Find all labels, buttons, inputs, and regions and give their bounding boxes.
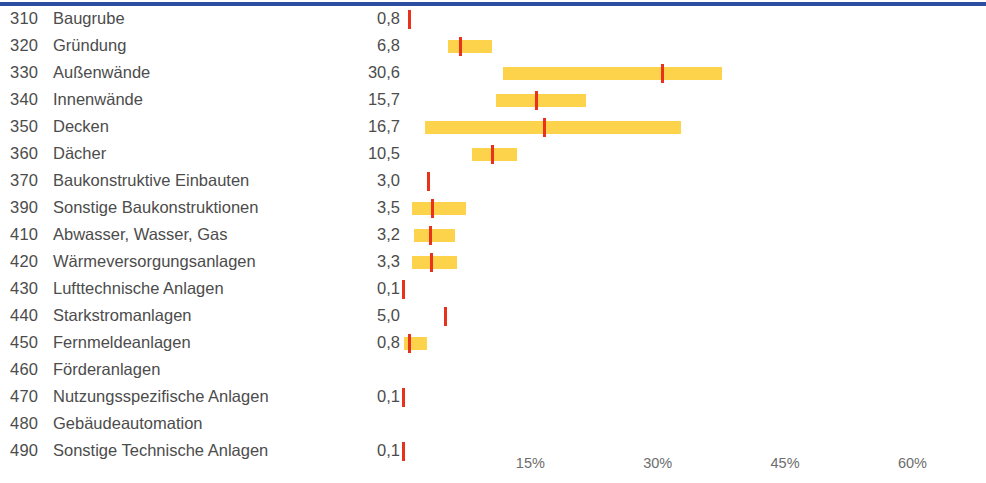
range-bar [496, 94, 585, 107]
mean-marker [661, 64, 664, 83]
row-plot [0, 33, 986, 60]
chart-row: 480Gebäudeautomation [0, 411, 986, 438]
chart-row: 420Wärmeversorgungsanlagen3,3 [0, 249, 986, 276]
mean-marker [535, 91, 538, 110]
chart-row: 440Starkstromanlagen5,0 [0, 303, 986, 330]
mean-marker [543, 118, 546, 137]
range-bar [425, 121, 681, 134]
chart-row: 310Baugrube0,8 [0, 6, 986, 33]
mean-marker [431, 199, 434, 218]
mean-marker [402, 280, 405, 299]
mean-marker [408, 334, 411, 353]
row-plot [0, 222, 986, 249]
range-bar [412, 202, 465, 215]
chart-row: 450Fernmeldeanlagen0,8 [0, 330, 986, 357]
row-plot [0, 87, 986, 114]
mean-marker [491, 145, 494, 164]
range-bar [414, 229, 455, 242]
chart-row: 430Lufttechnische Anlagen0,1 [0, 276, 986, 303]
row-plot [0, 141, 986, 168]
row-plot [0, 249, 986, 276]
chart-row: 390Sonstige Baukonstruktionen3,5 [0, 195, 986, 222]
axis-tick-label: 45% [771, 455, 800, 471]
range-bar [503, 67, 722, 80]
row-plot [0, 303, 986, 330]
axis-tick-label: 15% [516, 455, 545, 471]
chart-row: 350Decken16,7 [0, 114, 986, 141]
axis-tick-label: 30% [643, 455, 672, 471]
chart-rows: 310Baugrube0,8320Gründung6,8330Außenwänd… [0, 6, 986, 465]
range-bar [448, 40, 492, 53]
mean-marker [429, 226, 432, 245]
chart-row: 470Nutzungsspezifische Anlagen0,1 [0, 384, 986, 411]
mean-marker [444, 307, 447, 326]
mean-marker [430, 253, 433, 272]
row-plot [0, 357, 986, 384]
row-plot [0, 411, 986, 438]
chart-row: 340Innenwände15,7 [0, 87, 986, 114]
x-axis: 15%30%45%60% [0, 455, 986, 483]
mean-marker [427, 172, 430, 191]
chart-row: 330Außenwände30,6 [0, 60, 986, 87]
row-plot [0, 168, 986, 195]
row-plot [0, 276, 986, 303]
row-plot [0, 330, 986, 357]
row-plot [0, 60, 986, 87]
row-plot [0, 384, 986, 411]
mean-marker [408, 10, 411, 29]
chart-row: 320Gründung6,8 [0, 33, 986, 60]
chart-row: 370Baukonstruktive Einbauten3,0 [0, 168, 986, 195]
row-plot [0, 195, 986, 222]
chart-row: 360Dächer10,5 [0, 141, 986, 168]
mean-marker [459, 37, 462, 56]
row-plot [0, 114, 986, 141]
chart-row: 460Förderanlagen [0, 357, 986, 384]
axis-tick-label: 60% [898, 455, 927, 471]
chart-row: 410Abwasser, Wasser, Gas3,2 [0, 222, 986, 249]
row-plot [0, 6, 986, 33]
chart-container: 310Baugrube0,8320Gründung6,8330Außenwänd… [0, 0, 986, 483]
range-bar [472, 148, 517, 161]
mean-marker [402, 388, 405, 407]
range-bar [412, 256, 457, 269]
range-bar [404, 337, 427, 350]
